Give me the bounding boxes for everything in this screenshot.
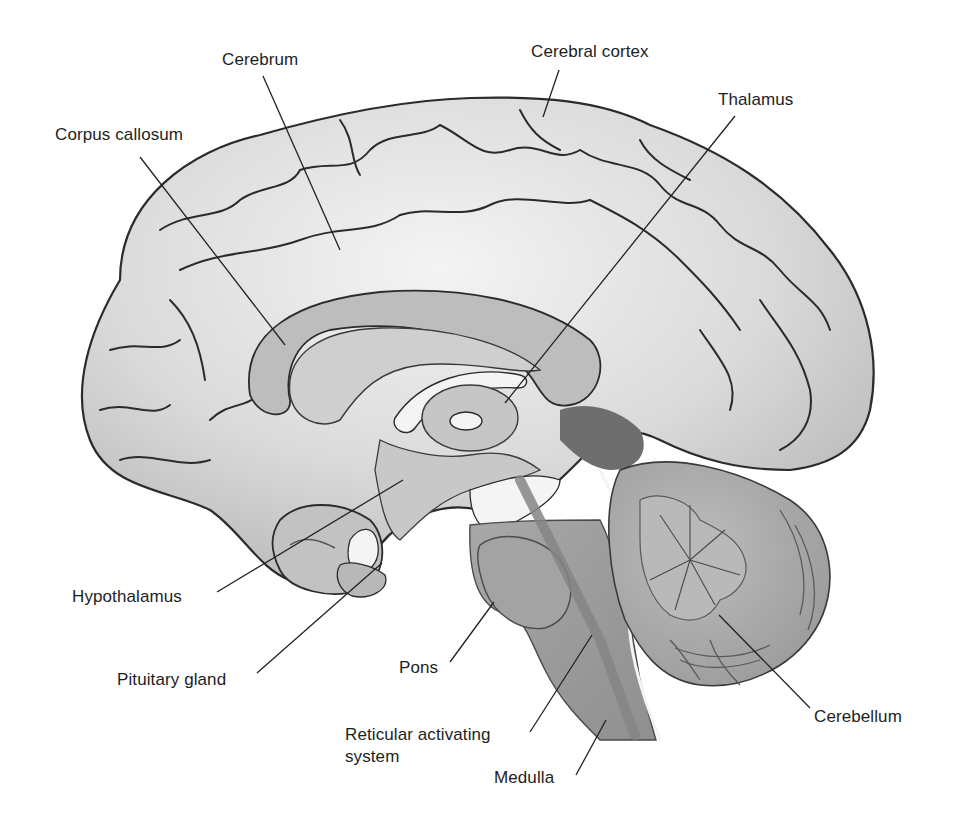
leader-line-pons (450, 602, 494, 662)
label-cerebral-cortex: Cerebral cortex (531, 42, 649, 62)
label-medulla: Medulla (494, 768, 554, 788)
label-hypothalamus: Hypothalamus (72, 587, 182, 607)
thalamus-shape (422, 385, 518, 451)
label-cerebellum: Cerebellum (814, 707, 902, 727)
label-pons: Pons (399, 658, 438, 678)
label-corpus-callosum: Corpus callosum (55, 125, 183, 145)
cerebellum-shape (609, 462, 830, 686)
label-pituitary-gland: Pituitary gland (117, 670, 226, 690)
brain-diagram: Cerebrum Cerebral cortex Thalamus Corpus… (0, 0, 966, 840)
label-cerebrum: Cerebrum (222, 50, 298, 70)
label-reticular-activating-system: Reticular activating system (345, 724, 535, 768)
label-thalamus: Thalamus (718, 90, 793, 110)
